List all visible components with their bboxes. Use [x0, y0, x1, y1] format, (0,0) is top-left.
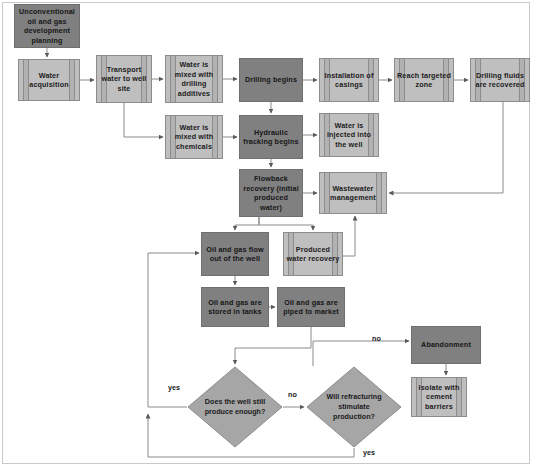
node-mix-chemicals-label: Water is mixed with chemicals	[168, 123, 220, 152]
node-drilling-begins-label: Drilling begins	[245, 75, 297, 85]
node-flowback-recovery-label: Flowback recovery (initial produced wate…	[242, 174, 300, 212]
edge-label-no-right: no	[372, 334, 381, 343]
edge-produced-water-to-wastewater	[343, 216, 355, 256]
edge-transport-to-mix-chemicals	[124, 103, 163, 137]
node-planning[interactable]: Unconventional oil and gas development p…	[14, 4, 80, 48]
node-drilling-fluids-recovered-label: Drilling fluids are recovered	[473, 71, 527, 90]
node-abandonment-label: Abandonment	[421, 340, 471, 350]
node-wastewater-management[interactable]: Wastewater management	[319, 172, 387, 214]
node-abandonment[interactable]: Abandonment	[411, 326, 481, 364]
decision-refracture[interactable]: Will refracturing stimulate production?	[306, 366, 402, 448]
node-oil-gas-flow-out[interactable]: Oil and gas flow out of the well	[201, 232, 269, 276]
node-produced-water-recovery[interactable]: Produced water recovery	[283, 232, 343, 276]
decision-refracture-label: Will refracturing stimulate production?	[319, 366, 388, 448]
node-hydraulic-fracking-label: Hydraulic fracking begins	[242, 128, 300, 147]
node-water-injected-label: Water is injected into the well	[322, 121, 376, 150]
edge-flowback-to-flow-out	[235, 217, 259, 230]
node-reach-targeted-zone-label: Reach targeted zone	[397, 71, 451, 90]
node-transport-water-label: Transport water to well site	[99, 65, 149, 94]
edge-refracture-no-to-abandonment	[313, 341, 409, 366]
flowchart-canvas: Unconventional oil and gas development p…	[0, 0, 538, 472]
node-stored-in-tanks-label: Oil and gas are stored in tanks	[204, 298, 266, 317]
node-hydraulic-fracking[interactable]: Hydraulic fracking begins	[239, 115, 303, 159]
node-piped-to-market[interactable]: Oil and gas are piped to market	[277, 287, 345, 327]
node-water-injected[interactable]: Water is injected into the well	[319, 113, 379, 157]
node-mix-drilling-additives[interactable]: Water is mixed with drilling additives	[165, 55, 223, 103]
node-flowback-recovery[interactable]: Flowback recovery (initial produced wate…	[239, 169, 303, 217]
edge-flowback-to-produced-water	[259, 217, 313, 230]
node-mix-chemicals[interactable]: Water is mixed with chemicals	[165, 115, 223, 159]
decision-still-produce[interactable]: Does the well still produce enough?	[187, 366, 283, 448]
edge-piped-market-to-still-produce	[235, 327, 311, 364]
edge-label-yes-bottom: yes	[363, 448, 375, 457]
node-transport-water[interactable]: Transport water to well site	[96, 55, 152, 103]
decision-still-produce-label: Does the well still produce enough?	[200, 366, 269, 448]
edge-label-no-middle: no	[288, 390, 297, 399]
node-oil-gas-flow-out-label: Oil and gas flow out of the well	[204, 245, 266, 264]
node-reach-targeted-zone[interactable]: Reach targeted zone	[394, 58, 454, 102]
node-mix-drilling-additives-label: Water is mixed with drilling additives	[168, 60, 220, 98]
node-isolate-cement-barriers-label: Isolate with cement barriers	[414, 383, 464, 412]
node-stored-in-tanks[interactable]: Oil and gas are stored in tanks	[201, 287, 269, 327]
node-produced-water-recovery-label: Produced water recovery	[286, 245, 340, 264]
node-installation-of-casings[interactable]: Installation of casings	[319, 58, 379, 102]
node-planning-label: Unconventional oil and gas development p…	[17, 7, 77, 45]
node-drilling-fluids-recovered[interactable]: Drilling fluids are recovered	[470, 58, 530, 102]
edge-label-yes-left: yes	[168, 383, 180, 392]
node-wastewater-management-label: Wastewater management	[322, 184, 384, 203]
edge-fluids-recovered-to-wastewater	[389, 102, 503, 193]
node-water-acquisition[interactable]: Water acquisition	[18, 59, 80, 101]
node-piped-to-market-label: Oil and gas are piped to market	[280, 298, 342, 317]
node-isolate-cement-barriers[interactable]: Isolate with cement barriers	[411, 377, 467, 417]
node-installation-of-casings-label: Installation of casings	[322, 71, 376, 90]
node-water-acquisition-label: Water acquisition	[21, 71, 77, 90]
node-drilling-begins[interactable]: Drilling begins	[239, 58, 303, 102]
